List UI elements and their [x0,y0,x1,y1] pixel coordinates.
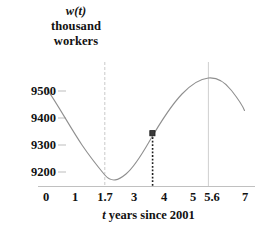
y-tick-label-9300: 9300 [0,138,56,153]
x-tick-label-1-7: 1.7 [97,190,113,205]
y-tick-label-9500: 9500 [0,84,56,99]
x-tick-label-4: 4 [161,190,167,205]
y-tick-label-9200: 9200 [0,165,56,180]
x-tick-label-7: 7 [242,190,248,205]
x-tick-label-1: 1 [72,190,78,205]
y-axis-title: w(t) thousand workers [30,4,122,48]
y-axis-title-line-2: thousand [30,19,122,34]
x-axis-title: t years since 2001 [46,208,251,223]
x-tick-label-0: 0 [43,190,49,205]
x-tick-label-3: 3 [131,190,137,205]
x-axis-title-text: years since 2001 [109,208,195,222]
x-tick-label-5-6: 5.6 [204,190,220,205]
y-axis-title-line-3: workers [30,34,122,49]
y-tick-label-9400: 9400 [0,111,56,126]
chart-figure: w(t) thousand workers 9200 9300 9400 950… [0,0,259,240]
x-axis-title-variable: t [102,208,105,222]
point-marker-3-5 [150,131,155,136]
y-axis-title-line-1: w(t) [30,4,122,19]
curve-w-of-t [47,78,245,180]
x-tick-label-5: 5 [190,190,196,205]
